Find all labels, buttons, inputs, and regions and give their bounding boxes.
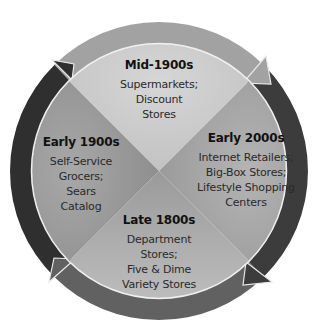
sector-label-bottom: Late 1800s Department Stores; Five & Dim… <box>104 213 214 292</box>
era-description: Supermarkets; Discount Stores <box>104 77 214 122</box>
sector-label-top: Mid-1900s Supermarkets; Discount Stores <box>104 58 214 122</box>
era-description: Internet Retailers; Big-Box Stores; Life… <box>186 150 306 210</box>
era-description: Department Stores; Five & Dime Variety S… <box>104 232 214 292</box>
sector-label-left: Early 1900s Self-Service Grocers; Sears … <box>30 135 132 214</box>
era-heading: Late 1800s <box>104 213 214 228</box>
era-heading: Early 1900s <box>30 135 132 150</box>
sector-label-right: Early 2000s Internet Retailers; Big-Box … <box>186 131 306 210</box>
era-heading: Early 2000s <box>186 131 306 146</box>
era-heading: Mid-1900s <box>104 58 214 73</box>
era-description: Self-Service Grocers; Sears Catalog <box>30 154 132 214</box>
